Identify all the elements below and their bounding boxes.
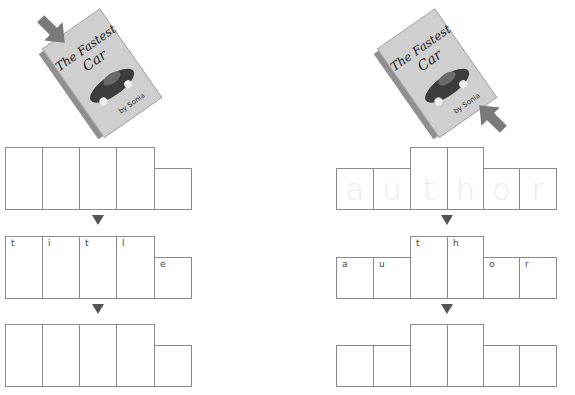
letter-box: t: [410, 236, 448, 299]
down-arrow-icon: [92, 215, 104, 225]
letter-box[interactable]: [42, 324, 80, 387]
down-arrow-icon: [441, 304, 453, 314]
down-arrow-icon: [92, 304, 104, 314]
letter-box[interactable]: [447, 324, 484, 387]
pointer-arrow-icon: [30, 8, 75, 53]
letter-box[interactable]: [5, 324, 43, 387]
letter: e: [160, 260, 166, 269]
letter-box: u: [373, 257, 411, 299]
letter-box: t: [79, 236, 117, 299]
letter-box[interactable]: [410, 324, 448, 387]
letter-box: l: [116, 236, 155, 299]
letter-box[interactable]: [5, 147, 43, 210]
down-arrow-icon: [441, 215, 453, 225]
letter: t: [416, 239, 420, 248]
letter-box[interactable]: [79, 147, 117, 210]
trace-letter: h: [448, 175, 483, 205]
letter-box: r: [519, 257, 557, 299]
pointer-arrow-icon: [470, 96, 515, 141]
letter: t: [11, 239, 15, 248]
letter-box[interactable]: [154, 345, 192, 387]
trace-letter: o: [484, 175, 519, 205]
letter: i: [48, 239, 51, 248]
letter: l: [122, 239, 125, 248]
letter-box[interactable]: [42, 147, 80, 210]
letter-box: e: [154, 257, 192, 299]
letter-box[interactable]: [154, 168, 192, 210]
letter-box: t: [5, 236, 43, 299]
letter-box: o: [483, 257, 520, 299]
letter-box[interactable]: [373, 345, 411, 387]
letter-box[interactable]: [116, 147, 155, 210]
letter-box[interactable]: [483, 345, 520, 387]
letter-box: a: [336, 257, 374, 299]
letter-box[interactable]: [336, 345, 374, 387]
letter-box[interactable]: [116, 324, 155, 387]
trace-letter: r: [520, 175, 556, 205]
letter-box[interactable]: o: [483, 168, 520, 210]
letter-box[interactable]: a: [336, 168, 374, 210]
letter: o: [489, 260, 495, 269]
trace-letter: u: [374, 175, 410, 205]
letter-box: i: [42, 236, 80, 299]
letter-box[interactable]: r: [519, 168, 557, 210]
letter-box[interactable]: t: [410, 147, 448, 210]
letter: u: [379, 260, 385, 269]
letter-box[interactable]: h: [447, 147, 484, 210]
trace-letter: t: [411, 175, 447, 205]
letter: a: [342, 260, 348, 269]
book-illustration-right: The Fastest Car by Sonia: [355, 4, 465, 144]
letter: h: [453, 239, 459, 248]
trace-letter: a: [337, 175, 373, 205]
letter-box: h: [447, 236, 484, 299]
letter-box[interactable]: u: [373, 168, 411, 210]
letter-box[interactable]: [519, 345, 557, 387]
letter: r: [525, 260, 529, 269]
letter: t: [85, 239, 89, 248]
letter-box[interactable]: [79, 324, 117, 387]
